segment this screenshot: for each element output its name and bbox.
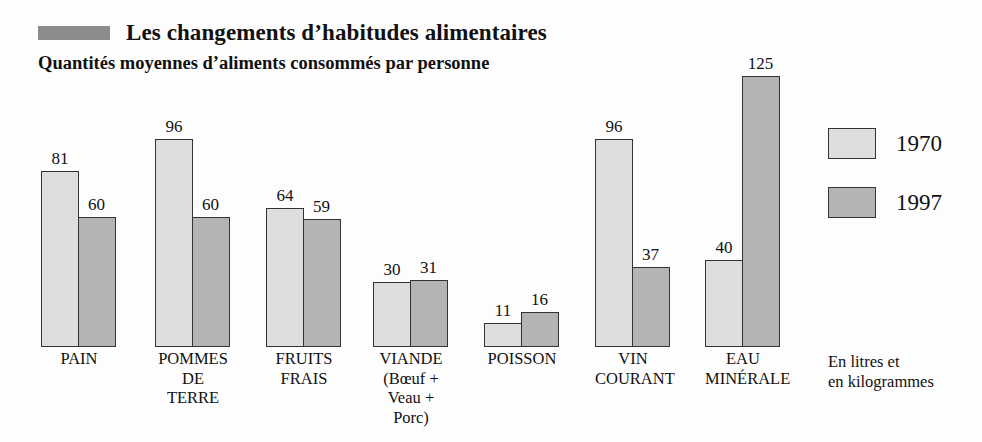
category-label-line: EAU bbox=[705, 349, 781, 369]
category-label-line: POISSON bbox=[484, 349, 560, 369]
bar-value-label: 60 bbox=[88, 195, 105, 215]
legend-item: 1997 bbox=[828, 187, 942, 218]
bar-group: 6459FRUITSFRAIS bbox=[266, 0, 342, 442]
bar-1997[interactable]: 37 bbox=[632, 267, 670, 347]
category-label: VIANDE(Bœuf +Veau +Porc) bbox=[373, 349, 449, 427]
category-label-line: (Bœuf + bbox=[373, 369, 449, 389]
units-footnote-line-1: En litres et bbox=[828, 352, 934, 372]
bars-wrap: 8160 bbox=[41, 171, 116, 347]
bar-value-label: 81 bbox=[52, 149, 69, 169]
category-label-line: MINÉRALE bbox=[705, 369, 781, 389]
bar-value-label: 40 bbox=[716, 238, 733, 258]
bar-value-label: 60 bbox=[202, 195, 219, 215]
bar-1970[interactable]: 30 bbox=[373, 282, 411, 347]
bar-value-label: 37 bbox=[642, 245, 659, 265]
bar-group: 1116POISSON bbox=[484, 0, 560, 442]
category-label-line: VIN bbox=[595, 349, 671, 369]
category-label: PAIN bbox=[41, 349, 117, 369]
category-label: POISSON bbox=[484, 349, 560, 369]
category-label-line: Porc) bbox=[373, 408, 449, 428]
category-label-line: VIANDE bbox=[373, 349, 449, 369]
bar-value-label: 16 bbox=[531, 290, 548, 310]
bars-wrap: 9637 bbox=[595, 139, 670, 347]
category-label-line: PAIN bbox=[41, 349, 117, 369]
bar-1970[interactable]: 64 bbox=[266, 208, 304, 347]
category-label-line: TERRE bbox=[155, 388, 231, 408]
bar-group: 40125EAUMINÉRALE bbox=[705, 0, 781, 442]
category-label-line: Veau + bbox=[373, 388, 449, 408]
bar-group: 3031VIANDE(Bœuf +Veau +Porc) bbox=[373, 0, 449, 442]
bar-1970[interactable]: 11 bbox=[484, 323, 522, 347]
units-footnote-line-2: en kilogrammes bbox=[828, 372, 934, 392]
legend-label-1970: 1970 bbox=[896, 131, 942, 157]
bar-value-label: 59 bbox=[313, 197, 330, 217]
bar-1970[interactable]: 40 bbox=[705, 260, 743, 347]
legend-swatch-1997 bbox=[828, 187, 876, 218]
category-label: FRUITSFRAIS bbox=[266, 349, 342, 388]
category-label: EAUMINÉRALE bbox=[705, 349, 781, 388]
chart-legend: 1970 1997 bbox=[828, 128, 942, 246]
bar-value-label: 30 bbox=[384, 260, 401, 280]
bar-1997[interactable]: 60 bbox=[78, 217, 116, 347]
bar-1970[interactable]: 96 bbox=[595, 139, 633, 347]
bar-group: 8160PAIN bbox=[41, 0, 117, 442]
bar-1970[interactable]: 81 bbox=[41, 171, 79, 347]
category-label-line: FRUITS bbox=[266, 349, 342, 369]
bar-value-label: 64 bbox=[277, 186, 294, 206]
category-label-line: DE bbox=[155, 369, 231, 389]
bar-1970[interactable]: 96 bbox=[155, 139, 193, 347]
category-label: POMMESDETERRE bbox=[155, 349, 231, 408]
category-label-line: POMMES bbox=[155, 349, 231, 369]
bar-value-label: 96 bbox=[606, 117, 623, 137]
bars-wrap: 9660 bbox=[155, 139, 230, 347]
bar-1997[interactable]: 31 bbox=[410, 280, 448, 347]
category-label: VINCOURANT bbox=[595, 349, 671, 388]
legend-label-1997: 1997 bbox=[896, 190, 942, 216]
legend-swatch-1970 bbox=[828, 128, 876, 159]
bar-1997[interactable]: 125 bbox=[742, 76, 780, 347]
plot-area: 8160PAIN9660POMMESDETERRE6459FRUITSFRAIS… bbox=[0, 0, 800, 442]
category-label-line: FRAIS bbox=[266, 369, 342, 389]
bar-value-label: 11 bbox=[495, 301, 511, 321]
bar-group: 9660POMMESDETERRE bbox=[155, 0, 231, 442]
bar-value-label: 31 bbox=[420, 258, 437, 278]
bar-1997[interactable]: 16 bbox=[521, 312, 559, 347]
bar-value-label: 96 bbox=[166, 117, 183, 137]
bars-wrap: 6459 bbox=[266, 208, 341, 347]
legend-item: 1970 bbox=[828, 128, 942, 159]
bars-wrap: 1116 bbox=[484, 312, 559, 347]
bar-1997[interactable]: 59 bbox=[303, 219, 341, 347]
bar-group: 9637VINCOURANT bbox=[595, 0, 671, 442]
bar-value-label: 125 bbox=[748, 54, 774, 74]
units-footnote: En litres et en kilogrammes bbox=[828, 352, 934, 392]
bar-1997[interactable]: 60 bbox=[192, 217, 230, 347]
chart-page: Les changements d’habitudes alimentaires… bbox=[0, 0, 982, 442]
bars-wrap: 3031 bbox=[373, 280, 448, 347]
category-label-line: COURANT bbox=[595, 369, 671, 389]
bars-wrap: 40125 bbox=[705, 76, 780, 347]
